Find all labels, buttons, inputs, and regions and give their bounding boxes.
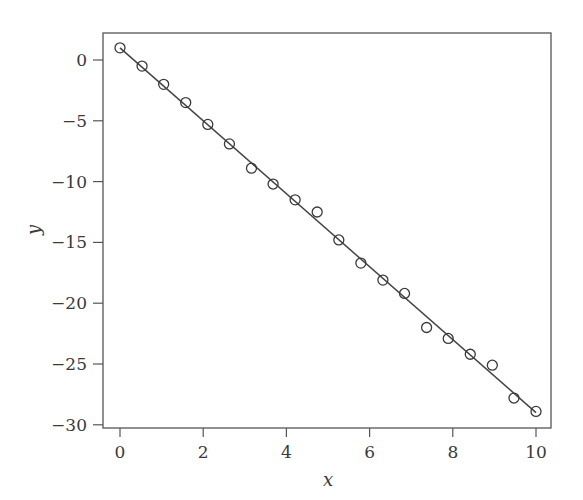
data-point — [487, 360, 497, 370]
y-tick-label: −5 — [62, 111, 87, 131]
x-tick-label: 4 — [281, 442, 292, 462]
data-point — [137, 61, 147, 71]
data-point — [290, 195, 300, 205]
x-tick-label: 6 — [364, 442, 375, 462]
y-tick-label: −30 — [51, 415, 87, 435]
y-axis: 0−5−10−15−20−25−30 — [51, 50, 103, 435]
data-point — [246, 163, 256, 173]
data-point — [159, 79, 169, 89]
x-tick-label: 8 — [447, 442, 458, 462]
data-point — [268, 179, 278, 189]
y-tick-label: −10 — [51, 172, 87, 192]
x-axis-label: x — [323, 469, 333, 490]
data-point — [531, 406, 541, 416]
data-point — [509, 393, 519, 403]
y-tick-label: 0 — [76, 50, 87, 70]
data-point — [422, 323, 432, 333]
x-axis: 0246810 — [115, 428, 547, 462]
y-tick-label: −15 — [51, 232, 87, 252]
y-axis-label: y — [23, 224, 44, 236]
x-tick-label: 10 — [525, 442, 547, 462]
y-tick-label: −20 — [51, 293, 87, 313]
data-point — [378, 275, 388, 285]
x-tick-label: 2 — [198, 442, 209, 462]
x-tick-label: 0 — [115, 442, 126, 462]
y-tick-label: −25 — [51, 354, 87, 374]
scatter-plot: 0246810 0−5−10−15−20−25−30 x y — [0, 0, 583, 500]
data-point — [312, 207, 322, 217]
